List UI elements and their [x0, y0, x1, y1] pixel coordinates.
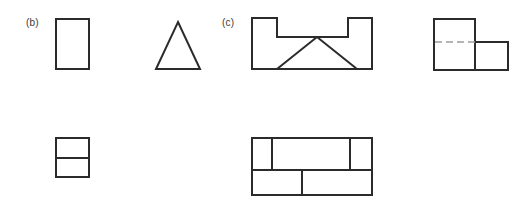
problem-c-top-view-segmented-block [251, 137, 374, 197]
split-rectangle-svg [55, 137, 91, 179]
problem-c-front-view-notched-block [251, 17, 374, 72]
notched-block-outline-path [252, 18, 372, 69]
notched-block-diagonal-left-path [277, 37, 317, 69]
problem-label-c: (c) [222, 17, 234, 28]
notched-block-svg [251, 17, 374, 72]
problem-b-front-view-rectangle [55, 18, 91, 71]
rectangle-outline-svg [55, 18, 91, 71]
problem-b-top-view-split-rectangle [55, 137, 91, 179]
problem-b-side-view-triangle [155, 21, 202, 71]
notched-block-diagonal-right-path [317, 37, 357, 69]
segmented-block-svg [251, 137, 374, 197]
triangle-outline-path [156, 22, 200, 69]
segmented-block-outline-path [252, 138, 372, 195]
problem-label-b: (b) [26, 17, 39, 28]
triangle-outline-svg [155, 21, 202, 71]
l-shape-svg [433, 18, 510, 72]
drawing-sheet: (b) (c) [0, 0, 528, 219]
l-shape-outline-path [434, 19, 508, 70]
problem-c-side-view-l-shape [433, 18, 510, 72]
rectangle-outline-path [56, 19, 89, 69]
